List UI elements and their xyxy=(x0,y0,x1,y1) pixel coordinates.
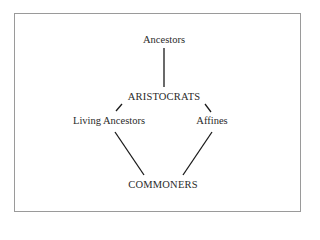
node-aristocrats: ARISTOCRATS xyxy=(128,92,201,103)
edge-affines-commoners xyxy=(183,132,212,175)
edge-living-ancestors-commoners xyxy=(115,132,144,175)
node-affines: Affines xyxy=(196,116,227,127)
node-commoners: COMMONERS xyxy=(128,180,197,191)
node-ancestors: Ancestors xyxy=(143,35,185,46)
edge-aristocrats-living-ancestors xyxy=(116,104,122,111)
node-living-ancestors: Living Ancestors xyxy=(73,116,145,127)
edge-aristocrats-affines xyxy=(205,104,211,112)
